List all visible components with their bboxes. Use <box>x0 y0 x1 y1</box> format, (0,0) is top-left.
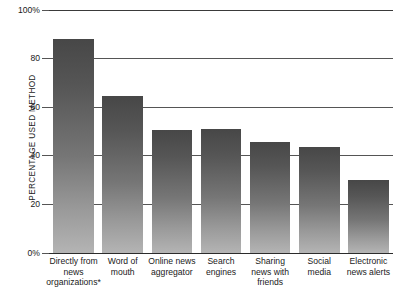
y-tick-mark-40 <box>42 155 49 156</box>
bar <box>201 129 242 253</box>
y-tick-label-100: 100% <box>18 5 40 15</box>
y-tick-label-80: 80 <box>30 53 40 63</box>
bar <box>348 180 389 253</box>
bar <box>102 96 143 253</box>
y-tick-mark-20 <box>42 204 49 205</box>
x-axis-label-line: friends <box>241 277 300 288</box>
x-axis-label: Electronicnews alerts <box>339 256 398 277</box>
bar <box>152 130 193 253</box>
bars-group <box>49 10 393 253</box>
y-tick-label-60: 60 <box>30 102 40 112</box>
y-tick-label-0: 0% <box>28 248 40 258</box>
y-tick-label-40: 40 <box>30 150 40 160</box>
x-axis-label-line: organizations* <box>44 277 103 288</box>
plot-area: 100%806040200% <box>49 10 393 253</box>
bar <box>299 147 340 253</box>
y-tick-mark-0 <box>42 253 49 254</box>
y-axis-title: PERCENTAGE USED METHOD <box>28 53 37 223</box>
bar <box>53 39 94 253</box>
y-tick-mark-60 <box>42 107 49 108</box>
y-tick-label-20: 20 <box>30 199 40 209</box>
bar-chart: PERCENTAGE USED METHOD 100%806040200% Di… <box>0 0 405 308</box>
bar <box>250 142 291 253</box>
x-axis-label-line: Electronic <box>339 256 398 267</box>
x-axis-label-line: news alerts <box>339 267 398 278</box>
y-tick-mark-80 <box>42 58 49 59</box>
y-tick-mark-100 <box>42 10 49 11</box>
x-axis-category-labels: Directly fromnewsorganizations*Word ofmo… <box>49 256 393 308</box>
